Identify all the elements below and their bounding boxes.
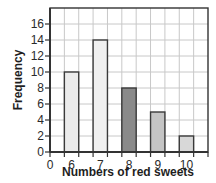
y-tick-label: 8 (37, 81, 44, 95)
bar-7 (93, 40, 107, 152)
y-tick-label: 16 (31, 17, 45, 31)
y-axis-title: Frequency (11, 49, 25, 110)
bar-10 (179, 136, 193, 152)
bars (64, 40, 193, 152)
y-tick-label: 14 (31, 33, 45, 47)
y-ticks: 0246810121416 (31, 17, 50, 159)
x-tick-label: 0 (47, 158, 54, 172)
y-tick-label: 0 (37, 145, 44, 159)
y-tick-label: 4 (37, 113, 44, 127)
y-tick-label: 6 (37, 97, 44, 111)
x-axis-title: Numbers of red sweets (62, 165, 194, 179)
bar-chart: 0246810121416 0678910 Numbers of red swe… (0, 0, 216, 183)
y-tick-label: 12 (31, 49, 45, 63)
bar-9 (151, 112, 165, 152)
y-tick-label: 10 (31, 65, 45, 79)
bar-6 (64, 72, 78, 152)
bar-8 (122, 88, 136, 152)
y-tick-label: 2 (37, 129, 44, 143)
